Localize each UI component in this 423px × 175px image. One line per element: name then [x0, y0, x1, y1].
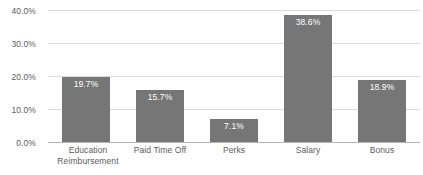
bars-group: 19.7% 15.7% 7.1% 38.6% 18.9%: [48, 10, 420, 142]
x-tick-label-line-1: Bonus: [340, 145, 423, 156]
bar-paid-time-off[interactable]: 15.7%: [136, 90, 184, 142]
x-tick-label-perks: Perks: [192, 145, 276, 156]
x-tick-label-paid-time-off: Paid Time Off: [118, 145, 202, 156]
x-axis-line: [48, 142, 420, 143]
bar-chart: 40.0% 30.0% 20.0% 10.0% 0.0% 19.7% 15.7%…: [0, 0, 423, 175]
bar-slot-paid-time-off: 15.7%: [136, 10, 184, 142]
x-tick-label-bonus: Bonus: [340, 145, 423, 156]
bar-value-salary: 38.6%: [284, 18, 332, 27]
y-tick-label-0: 0.0%: [0, 139, 36, 148]
bar-slot-perks: 7.1%: [210, 10, 258, 142]
bar-value-paid-time-off: 15.7%: [136, 93, 184, 102]
bar-slot-education-reimbursement: 19.7%: [62, 10, 110, 142]
bar-slot-bonus: 18.9%: [358, 10, 406, 142]
x-tick-label-line-1: Paid Time Off: [118, 145, 202, 156]
x-tick-label-salary: Salary: [266, 145, 350, 156]
bar-perks[interactable]: 7.1%: [210, 119, 258, 142]
x-axis-category-labels: Education Reimbursement Paid Time Off Pe…: [48, 145, 420, 175]
y-tick-label-40: 40.0%: [0, 7, 36, 16]
y-tick-label-10: 10.0%: [0, 106, 36, 115]
bar-education-reimbursement[interactable]: 19.7%: [62, 77, 110, 142]
x-tick-label-line-1: Perks: [192, 145, 276, 156]
y-tick-label-20: 20.0%: [0, 73, 36, 82]
y-tick-label-30: 30.0%: [0, 40, 36, 49]
bar-value-bonus: 18.9%: [358, 83, 406, 92]
bar-bonus[interactable]: 18.9%: [358, 80, 406, 142]
bar-value-perks: 7.1%: [210, 122, 258, 131]
bar-salary[interactable]: 38.6%: [284, 15, 332, 142]
x-tick-label-line-1: Salary: [266, 145, 350, 156]
bar-value-education-reimbursement: 19.7%: [62, 80, 110, 89]
x-tick-label-line-2: Reimbursement: [44, 156, 132, 167]
bar-slot-salary: 38.6%: [284, 10, 332, 142]
